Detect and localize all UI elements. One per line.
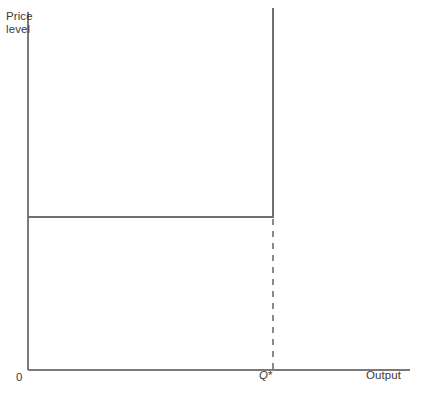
q-star-letter: Q (259, 369, 268, 381)
origin-label: 0 (16, 371, 23, 384)
y-axis-label: Pricelevel (6, 10, 33, 35)
y-axis-label-line-1: Price (6, 10, 33, 22)
x-axis-label: Output (366, 369, 401, 382)
chart-canvas (0, 0, 422, 393)
q-star-annotation: Q* (259, 369, 273, 382)
q-star-asterisk: * (268, 369, 273, 381)
y-axis-label-line-2: level (6, 23, 30, 35)
price-level-output-chart: Pricelevel 0 Q* Output (0, 0, 422, 393)
